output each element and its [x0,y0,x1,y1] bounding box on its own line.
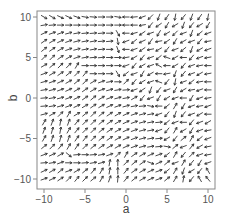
x-axis-title: a [123,202,130,216]
y-tick-label: −5 [20,133,32,144]
y-axis-title: b [6,94,20,101]
y-tick-label: 10 [20,12,32,23]
x-tick-label: 10 [202,194,214,205]
y-tick-label: 5 [25,52,31,63]
x-tick-label: −10 [36,194,53,205]
x-tick-label: 5 [164,194,170,205]
quiver-plot: −10−50510 −10−50510 a b [0,0,226,221]
x-tick-label: −5 [79,194,91,205]
y-tick-label: 0 [25,93,31,104]
y-tick-label: −10 [14,174,31,185]
